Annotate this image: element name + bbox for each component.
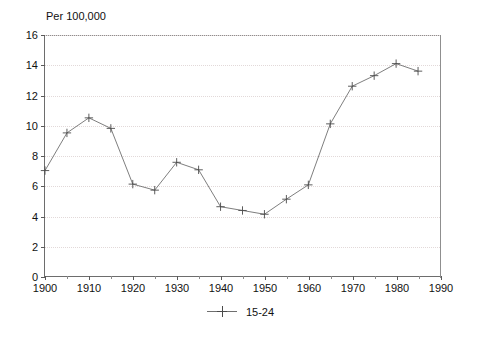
x-tick-mark bbox=[441, 276, 442, 280]
y-tick-label: 16 bbox=[26, 30, 38, 41]
x-tick-mark bbox=[177, 276, 178, 280]
y-axis-unit-label: Per 100,000 bbox=[46, 10, 106, 23]
data-point-marker bbox=[216, 203, 224, 211]
y-tick-label: 12 bbox=[26, 90, 38, 101]
data-point-marker bbox=[129, 180, 137, 188]
y-tick-label: 8 bbox=[32, 151, 38, 162]
x-tick-minor-mark bbox=[331, 276, 332, 279]
data-point-marker bbox=[172, 158, 180, 166]
data-point-marker bbox=[41, 166, 49, 174]
x-tick-minor-mark bbox=[375, 276, 376, 279]
data-point-marker bbox=[63, 129, 71, 137]
x-tick-label: 1920 bbox=[121, 283, 145, 294]
series-line bbox=[45, 64, 418, 215]
x-tick-minor-mark bbox=[155, 276, 156, 279]
x-tick-minor-mark bbox=[419, 276, 420, 279]
x-tick-label: 1950 bbox=[253, 283, 277, 294]
x-tick-minor-mark bbox=[287, 276, 288, 279]
y-tick-label: 14 bbox=[26, 60, 38, 71]
data-point-marker bbox=[392, 59, 400, 67]
x-tick-label: 1980 bbox=[385, 283, 409, 294]
data-point-marker bbox=[151, 186, 159, 194]
x-tick-label: 1900 bbox=[33, 283, 57, 294]
x-tick-minor-mark bbox=[199, 276, 200, 279]
x-tick-mark bbox=[89, 276, 90, 280]
legend-label: 15-24 bbox=[246, 306, 274, 318]
y-tick-label: 10 bbox=[26, 120, 38, 131]
legend-plus-marker-icon bbox=[207, 305, 237, 319]
line-chart: Per 100,000 0246810121416 19001910192019… bbox=[0, 0, 481, 342]
x-tick-label: 1990 bbox=[429, 283, 453, 294]
data-point-marker bbox=[260, 210, 268, 218]
legend-item: 15-24 bbox=[207, 305, 274, 319]
x-tick-minor-mark bbox=[243, 276, 244, 279]
x-tick-label: 1970 bbox=[341, 283, 365, 294]
x-tick-mark bbox=[353, 276, 354, 280]
data-point-marker bbox=[194, 166, 202, 174]
x-tick-mark bbox=[265, 276, 266, 280]
x-tick-mark bbox=[397, 276, 398, 280]
data-point-marker bbox=[326, 120, 334, 128]
data-point-marker bbox=[348, 82, 356, 90]
y-tick-label: 0 bbox=[32, 272, 38, 283]
series-plot-15-24 bbox=[45, 35, 440, 276]
data-point-marker bbox=[304, 181, 312, 189]
y-tick-label: 2 bbox=[32, 241, 38, 252]
x-tick-mark bbox=[221, 276, 222, 280]
x-tick-mark bbox=[309, 276, 310, 280]
x-tick-label: 1940 bbox=[209, 283, 233, 294]
data-point-marker bbox=[85, 114, 93, 122]
plot-frame-right bbox=[440, 35, 441, 278]
plot-area: 0246810121416 19001910192019301940195019… bbox=[44, 35, 440, 277]
x-tick-label: 1930 bbox=[165, 283, 189, 294]
data-point-marker bbox=[370, 71, 378, 79]
data-point-marker bbox=[238, 206, 246, 214]
data-point-marker bbox=[282, 195, 290, 203]
x-tick-mark bbox=[133, 276, 134, 280]
x-tick-minor-mark bbox=[67, 276, 68, 279]
x-tick-label: 1960 bbox=[297, 283, 321, 294]
data-point-marker bbox=[107, 124, 115, 132]
y-tick-label: 4 bbox=[32, 211, 38, 222]
data-point-marker bbox=[414, 67, 422, 75]
x-tick-mark bbox=[45, 276, 46, 280]
x-tick-label: 1910 bbox=[77, 283, 101, 294]
x-tick-minor-mark bbox=[111, 276, 112, 279]
y-tick-label: 6 bbox=[32, 181, 38, 192]
chart-legend: 15-24 bbox=[0, 305, 481, 319]
